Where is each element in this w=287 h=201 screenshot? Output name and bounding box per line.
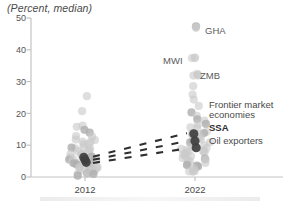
scatter-point (195, 102, 203, 110)
scatter-point (73, 123, 81, 131)
scatter-point (189, 168, 197, 176)
outlier-point (191, 54, 199, 62)
chart-figure: (Percent, median) 50 40 30 20 10 0 2012 … (0, 0, 287, 201)
annotation-gha: GHA (205, 25, 226, 36)
y-tick-30: 30 (6, 77, 26, 87)
annotation-mwi: MWI (163, 55, 183, 66)
median-marker (192, 143, 201, 152)
y-tick-10: 10 (6, 140, 26, 150)
scatter-point (89, 170, 97, 178)
median-marker (82, 158, 91, 167)
connector-line (93, 148, 187, 163)
x-tick-2012: 2012 (60, 184, 110, 195)
scatter-point (74, 172, 82, 180)
median-connector-lines (93, 133, 187, 163)
cropped-caption-artifact (40, 197, 260, 201)
legend-item-oil: Oil exporters (209, 136, 263, 146)
outlier-point (192, 23, 200, 31)
legend-item-ssa: SSA (209, 123, 229, 133)
scatter-point (189, 82, 197, 90)
legend-item-frontier: Frontier market economies (209, 100, 273, 120)
y-tick-0: 0 (6, 172, 26, 182)
scatter-point (201, 159, 209, 167)
scatter-point (78, 107, 86, 115)
x-tick-2022: 2022 (170, 184, 220, 195)
y-tick-40: 40 (6, 45, 26, 55)
y-tick-20: 20 (6, 109, 26, 119)
y-tick-50: 50 (6, 13, 26, 23)
legend-label-frontier-2: economies (209, 110, 273, 120)
annotation-zmb: ZMB (200, 70, 220, 81)
scatter-group-2012 (65, 92, 102, 180)
x-axis (31, 177, 283, 181)
scatter-point (83, 92, 91, 100)
y-axis (27, 18, 32, 177)
